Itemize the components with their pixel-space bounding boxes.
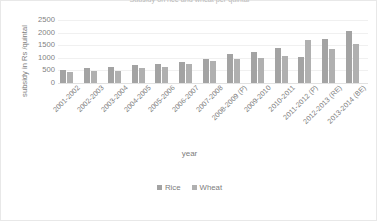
bar-wheat[interactable] — [186, 64, 192, 83]
legend-swatch-icon — [157, 185, 162, 190]
bar-rice[interactable] — [346, 31, 352, 83]
bar-wheat[interactable] — [258, 58, 264, 83]
bar-wheat[interactable] — [210, 61, 216, 83]
bar-group — [130, 20, 154, 83]
bar-rice[interactable] — [132, 65, 138, 83]
bar-group — [344, 20, 368, 83]
bar-wheat[interactable] — [329, 49, 335, 83]
y-axis-tick-labels: 25002000150010005000 — [27, 14, 55, 90]
y-axis-tick: 1500 — [38, 41, 55, 49]
y-axis-tick: 500 — [42, 66, 55, 74]
bar-group — [225, 20, 249, 83]
bar-rice[interactable] — [322, 39, 328, 83]
bar-wheat[interactable] — [67, 72, 73, 83]
legend-swatch-icon — [192, 185, 197, 190]
bar-group — [296, 20, 320, 83]
bar-rice[interactable] — [203, 59, 209, 83]
bar-group — [201, 20, 225, 83]
bar-rice[interactable] — [251, 52, 257, 83]
bar-rice[interactable] — [84, 68, 90, 83]
bar-rice[interactable] — [227, 54, 233, 83]
x-axis-title: year — [1, 149, 377, 158]
bar-wheat[interactable] — [139, 68, 145, 83]
bar-wheat[interactable] — [353, 44, 359, 83]
bar-group — [273, 20, 297, 83]
bar-group — [177, 20, 201, 83]
chart-legend: RiceWheat — [1, 183, 377, 192]
bar-wheat[interactable] — [162, 67, 168, 83]
legend-item-wheat[interactable]: Wheat — [192, 183, 223, 192]
legend-label: Wheat — [200, 183, 223, 192]
bar-wheat[interactable] — [115, 71, 121, 83]
bar-group — [320, 20, 344, 83]
bar-rice[interactable] — [60, 70, 66, 83]
legend-item-rice[interactable]: Rice — [157, 183, 181, 192]
bar-wheat[interactable] — [305, 40, 311, 83]
bar-wheat[interactable] — [282, 56, 288, 83]
bar-wheat[interactable] — [234, 59, 240, 83]
bar-rice[interactable] — [179, 62, 185, 83]
bar-group — [106, 20, 130, 83]
y-axis-tick: 2000 — [38, 29, 55, 37]
bar-rice[interactable] — [275, 48, 281, 83]
bar-group — [249, 20, 273, 83]
legend-label: Rice — [165, 183, 181, 192]
bar-chart-card: Subsidy on rice and wheat per quintal su… — [0, 0, 377, 221]
bar-group — [82, 20, 106, 83]
bar-rice[interactable] — [155, 64, 161, 83]
x-axis-tick-labels: 2001-20022002-20032003-20042004-20052005… — [58, 84, 368, 136]
chart-title: Subsidy on rice and wheat per quintal — [1, 0, 377, 4]
bar-rice[interactable] — [298, 57, 304, 83]
y-axis-tick: 0 — [51, 79, 55, 87]
y-axis-tick: 2500 — [38, 16, 55, 24]
y-axis-tick: 1000 — [38, 54, 55, 62]
plot-area — [58, 20, 368, 83]
bar-group — [153, 20, 177, 83]
bar-wheat[interactable] — [91, 71, 97, 83]
bar-rice[interactable] — [108, 67, 114, 83]
bar-group — [58, 20, 82, 83]
